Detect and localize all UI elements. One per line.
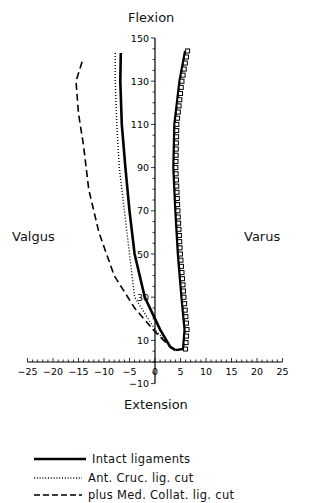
y-tick-label: 50 (137, 249, 149, 260)
marker-square (181, 73, 185, 77)
marker-square (176, 116, 180, 120)
marker-square (180, 79, 184, 83)
y-tick-label: 110 (131, 119, 149, 130)
legend-item-med-collat: plus Med. Collat. lig. cut (34, 487, 234, 503)
marker-square (178, 246, 182, 250)
marker-square (178, 240, 182, 244)
marker-square (177, 221, 181, 225)
dashed-line-swatch (34, 492, 82, 498)
legend-item-ant-cruc: Ant. Cruc. lig. cut (34, 470, 193, 486)
x-tick-label: −5 (122, 366, 136, 377)
series-ant-cruc (115, 53, 170, 347)
marker-square (174, 153, 178, 157)
marker-square (183, 308, 187, 312)
solid-line-swatch (34, 456, 86, 462)
marker-square (176, 209, 180, 213)
marker-square (179, 258, 183, 262)
marker-square (185, 334, 189, 338)
x-tick-label: 20 (251, 366, 263, 377)
marker-square (180, 277, 184, 281)
dotted-line-swatch (34, 475, 82, 481)
marker-square (174, 159, 178, 163)
marker-square (186, 49, 190, 53)
marker-square (183, 61, 187, 65)
y-tick-label: 10 (137, 335, 149, 346)
x-tick-label: 10 (200, 366, 212, 377)
x-tick-label: 25 (276, 366, 288, 377)
marker-square (180, 271, 184, 275)
x-tick-label: −10 (94, 366, 114, 377)
marker-square (176, 110, 180, 114)
marker-square (184, 315, 188, 319)
marker-square (175, 129, 179, 133)
legend-label: Intact ligaments (92, 452, 190, 466)
legend-label: plus Med. Collat. lig. cut (88, 488, 234, 502)
marker-square (182, 295, 186, 299)
x-tick-label: 5 (177, 366, 183, 377)
marker-square (177, 227, 181, 231)
marker-square (174, 141, 178, 145)
marker-square (175, 135, 179, 139)
marker-square (174, 178, 178, 182)
marker-square (185, 328, 189, 332)
marker-square (175, 184, 179, 188)
marker-square (177, 104, 181, 108)
marker-square (178, 98, 182, 102)
plot-area: −25−20−15−10−50510152025−101030507090110… (0, 0, 314, 420)
y-tick-label: −10 (129, 378, 149, 389)
marker-square (179, 92, 183, 96)
x-tick-label: −20 (43, 366, 63, 377)
marker-square (182, 289, 186, 293)
marker-square (175, 190, 179, 194)
y-tick-label: 70 (137, 205, 149, 216)
marker-square (174, 166, 178, 170)
marker-square (184, 347, 188, 351)
marker-square (179, 85, 183, 89)
series-med-collat (76, 62, 170, 347)
x-tick-label: −15 (68, 366, 88, 377)
marker-square (178, 252, 182, 256)
series-intact-left (120, 53, 175, 350)
legend-item-intact: Intact ligaments (34, 451, 190, 467)
x-tick-label: 15 (225, 366, 237, 377)
marker-square (177, 233, 181, 237)
marker-square (184, 341, 188, 345)
marker-square (179, 264, 183, 268)
y-tick-label: 130 (131, 76, 149, 87)
x-tick-label: −25 (17, 366, 37, 377)
y-tick-label: 150 (131, 33, 149, 44)
marker-square (175, 122, 179, 126)
marker-square (184, 55, 188, 59)
marker-square (175, 196, 179, 200)
marker-square (181, 283, 185, 287)
marker-square (183, 302, 187, 306)
marker-square (176, 203, 180, 207)
y-tick-label: 90 (137, 162, 149, 173)
marker-square (184, 321, 188, 325)
marker-square (176, 215, 180, 219)
marker-square (174, 147, 178, 151)
marker-square (182, 67, 186, 71)
legend-label: Ant. Cruc. lig. cut (88, 471, 193, 485)
marker-square (174, 172, 178, 176)
